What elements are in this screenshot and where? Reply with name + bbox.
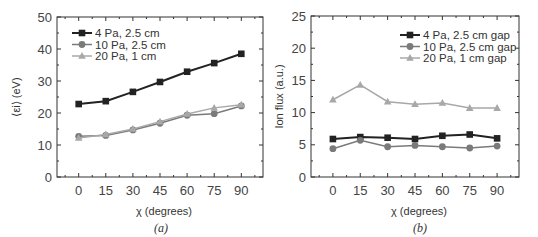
circle-marker bbox=[494, 143, 501, 150]
legend: 4 Pa, 2.5 cm gap10 Pa, 2.5 cm gap20 Pa, … bbox=[400, 29, 516, 64]
square-marker bbox=[412, 136, 419, 143]
circle-marker bbox=[329, 145, 336, 152]
x-tick-label: 15 bbox=[99, 183, 113, 198]
legend-square-icon bbox=[407, 32, 414, 39]
square-marker bbox=[130, 89, 137, 96]
legend-circle-icon bbox=[79, 41, 86, 48]
x-tick-label: 60 bbox=[435, 183, 449, 198]
square-marker bbox=[494, 135, 501, 142]
panel-caption: (b) bbox=[413, 221, 427, 235]
x-tick-label: 15 bbox=[353, 183, 367, 198]
chart-panel-b: 05101520250153045607590χ (degrees)Ion fl… bbox=[273, 9, 519, 236]
y-axis-label: Ion flux (a.u.) bbox=[273, 64, 285, 128]
series-2 bbox=[329, 81, 501, 111]
legend-circle-icon bbox=[407, 43, 414, 50]
legend-label: 20 Pa, 1 cm bbox=[95, 50, 156, 62]
x-tick-label: 0 bbox=[75, 183, 82, 198]
y-tick-label: 10 bbox=[38, 138, 52, 153]
y-tick-label: 0 bbox=[45, 170, 52, 185]
y-tick-label: 20 bbox=[292, 41, 306, 56]
legend-label: 10 Pa, 2.5 cm bbox=[95, 39, 166, 51]
x-axis-label: χ (degrees) bbox=[391, 205, 447, 217]
circle-marker bbox=[466, 145, 473, 152]
x-tick-label: 30 bbox=[380, 183, 394, 198]
series-2 bbox=[75, 101, 245, 141]
legend: 4 Pa, 2.5 cm10 Pa, 2.5 cm20 Pa, 1 cm bbox=[72, 27, 166, 62]
x-tick-label: 90 bbox=[234, 183, 248, 198]
x-tick-label: 0 bbox=[329, 183, 336, 198]
circle-marker bbox=[384, 143, 391, 150]
y-tick-label: 0 bbox=[299, 170, 306, 185]
legend-square-icon bbox=[79, 30, 86, 37]
square-marker bbox=[238, 51, 245, 58]
x-tick-label: 75 bbox=[207, 183, 221, 198]
square-marker bbox=[102, 98, 109, 105]
chart-panel-a: 010203040500153045607590χ (degrees)⟨εi⟩ … bbox=[10, 10, 263, 236]
square-marker bbox=[211, 60, 218, 67]
panel-caption: (a) bbox=[154, 221, 168, 235]
triangle-marker bbox=[356, 81, 364, 88]
y-tick-label: 30 bbox=[38, 74, 52, 89]
y-tick-label: 10 bbox=[292, 105, 306, 120]
x-tick-label: 75 bbox=[463, 183, 477, 198]
square-marker bbox=[330, 136, 337, 143]
x-axis-label: χ (degrees) bbox=[136, 205, 192, 217]
legend-label: 20 Pa, 1 cm gap bbox=[423, 52, 507, 64]
y-tick-label: 20 bbox=[38, 106, 52, 121]
square-marker bbox=[75, 101, 82, 108]
y-axis-label: ⟨εi⟩ (eV) bbox=[10, 77, 22, 116]
x-tick-label: 45 bbox=[153, 183, 167, 198]
square-marker bbox=[184, 68, 191, 75]
series-0 bbox=[330, 131, 501, 142]
y-tick-label: 15 bbox=[292, 73, 306, 88]
legend-label: 4 Pa, 2.5 cm gap bbox=[423, 29, 510, 41]
x-tick-label: 90 bbox=[490, 183, 504, 198]
circle-marker bbox=[211, 110, 218, 117]
y-tick-label: 25 bbox=[292, 9, 306, 24]
legend-label: 10 Pa, 2.5 cm gap bbox=[423, 41, 516, 53]
square-marker bbox=[466, 131, 473, 138]
legend-label: 4 Pa, 2.5 cm bbox=[95, 27, 160, 39]
circle-marker bbox=[357, 137, 364, 144]
square-marker bbox=[384, 134, 391, 141]
x-tick-label: 45 bbox=[408, 183, 422, 198]
triangle-marker bbox=[384, 98, 392, 105]
y-tick-label: 40 bbox=[38, 42, 52, 57]
square-marker bbox=[157, 79, 164, 86]
x-tick-label: 30 bbox=[126, 183, 140, 198]
circle-marker bbox=[439, 143, 446, 150]
figure: 010203040500153045607590χ (degrees)⟨εi⟩ … bbox=[0, 0, 538, 237]
y-tick-label: 50 bbox=[38, 10, 52, 25]
circle-marker bbox=[412, 142, 419, 149]
square-marker bbox=[439, 132, 446, 139]
x-tick-label: 60 bbox=[180, 183, 194, 198]
y-tick-label: 5 bbox=[299, 137, 306, 152]
